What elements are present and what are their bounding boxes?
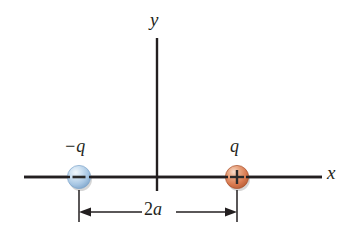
x-axis-label: x bbox=[327, 163, 335, 182]
y-axis-label: y bbox=[150, 10, 158, 29]
separation-symbol: a bbox=[153, 199, 162, 219]
negative-charge-label: −q bbox=[64, 137, 85, 155]
diagram-canvas bbox=[0, 0, 350, 240]
separation-label: 2a bbox=[144, 200, 162, 218]
negative-charge-marker bbox=[67, 165, 92, 191]
electric-dipole-diagram: y x −q q 2a bbox=[0, 0, 350, 240]
positive-charge-label: q bbox=[230, 137, 239, 155]
dimension-arrowhead-left bbox=[79, 208, 91, 217]
separation-number: 2 bbox=[144, 199, 153, 219]
dimension-arrowhead-right bbox=[225, 208, 237, 217]
